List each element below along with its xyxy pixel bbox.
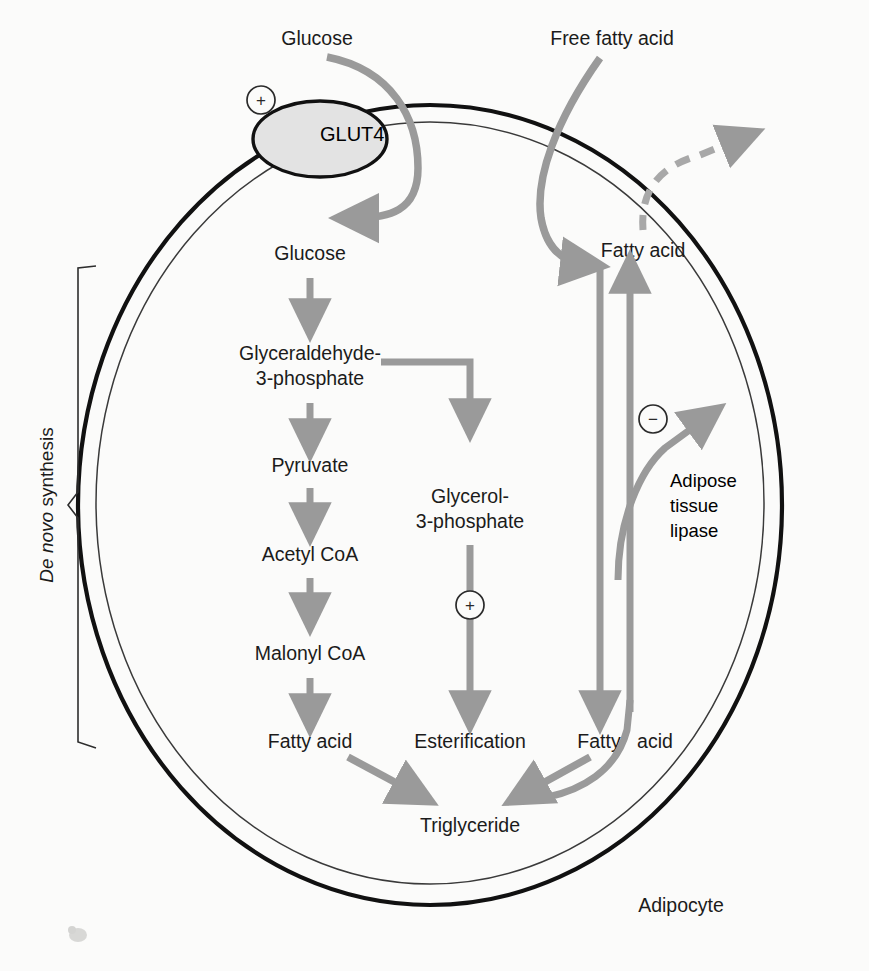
node-glycerol3p-line1: Glycerol- [431, 485, 509, 507]
node-lipase-line3: lipase [670, 520, 718, 541]
diagram-canvas: De novo synthesis Glucose Free fatty aci… [0, 0, 869, 971]
node-glycerol3p-line2: 3-phosphate [416, 510, 524, 532]
esterification-plus-modifier: + [456, 591, 484, 619]
node-ga3p-line1: Glyceraldehyde- [239, 342, 381, 364]
node-pyruvate: Pyruvate [272, 454, 349, 476]
node-fatty-acid-right-bottom-a: Fatty [577, 730, 621, 752]
node-glucose-intracellular: Glucose [274, 242, 346, 264]
minus-sign-lipase: − [648, 410, 658, 429]
label-external-free-fatty-acid: Free fatty acid [550, 27, 674, 49]
label-external-glucose: Glucose [281, 27, 353, 49]
node-ga3p-line2: 3-phosphate [256, 367, 364, 389]
node-acetyl-coa: Acetyl CoA [262, 543, 358, 565]
node-fatty-acid-left: Fatty acid [268, 730, 353, 752]
node-fatty-acid-right-bottom-b: acid [637, 730, 673, 752]
glut4-transporter[interactable]: GLUT4 [253, 101, 387, 177]
plus-sign-glut4: + [256, 91, 266, 110]
glut4-label: GLUT4 [320, 123, 384, 145]
bracket-label-italic: De novo [36, 512, 57, 583]
node-fatty-acid-right-top: Fatty acid [601, 239, 686, 261]
glut4-plus-modifier: + [247, 86, 275, 114]
node-lipase-line1: Adipose [670, 470, 737, 491]
node-esterification: Esterification [414, 730, 526, 752]
node-triglyceride: Triglyceride [420, 814, 520, 836]
bracket-label-rest: synthesis [36, 427, 57, 511]
label-adipocyte: Adipocyte [638, 894, 724, 916]
svg-text:De novo synthesis: De novo synthesis [36, 427, 57, 582]
node-lipase-line2: tissue [670, 495, 718, 516]
lipase-minus-modifier: − [639, 405, 667, 433]
node-malonyl-coa: Malonyl CoA [255, 642, 366, 664]
plus-sign-esterification: + [465, 596, 475, 615]
de-novo-bracket-label: De novo synthesis [36, 427, 57, 582]
